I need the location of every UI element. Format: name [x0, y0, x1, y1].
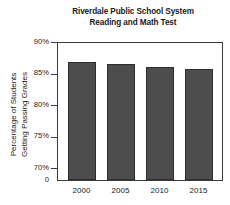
bar-2005 — [107, 64, 135, 180]
y-tick-70: 70% — [51, 168, 58, 169]
chart-title-line-1: Riverdale Public School System — [40, 7, 226, 18]
y-tick-90: 90% — [51, 42, 58, 43]
y-tick-label-70: 70% — [34, 163, 49, 172]
bar-chart-figure: Riverdale Public School System Reading a… — [0, 0, 230, 205]
x-axis-tick-labels: 2000 2005 2010 2015 — [58, 186, 222, 195]
bar-2010 — [146, 67, 174, 180]
chart-title: Riverdale Public School System Reading a… — [40, 7, 226, 28]
y-tick-label-90: 90% — [34, 37, 49, 46]
y-tick-label-75: 75% — [34, 131, 49, 140]
y-axis-label-line-2: Getting Passing Grades — [19, 50, 30, 180]
y-axis-label: Percentage of Students Getting Passing G… — [9, 50, 30, 180]
y-axis-label-line-1: Percentage of Students — [9, 50, 20, 180]
x-tick-label-2005: 2005 — [107, 186, 135, 195]
y-tick-85: 85% — [51, 74, 58, 75]
x-tick-label-2010: 2010 — [146, 186, 174, 195]
y-tick-75: 75% — [51, 137, 58, 138]
y-tick-80: 80% — [51, 105, 58, 106]
y-tick-label-80: 80% — [34, 100, 49, 109]
y-tick-label-baseline: 0 — [45, 175, 49, 184]
bar-2000 — [68, 62, 96, 180]
bar-series — [58, 43, 222, 180]
x-tick-label-2000: 2000 — [68, 186, 96, 195]
x-tick-label-2015: 2015 — [185, 186, 213, 195]
chart-title-line-2: Reading and Math Test — [40, 18, 226, 29]
bar-2015 — [185, 69, 213, 180]
y-tick-label-85: 85% — [34, 68, 49, 77]
